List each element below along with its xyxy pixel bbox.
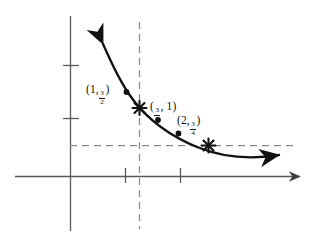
label-point-2: (32, 1) [150, 101, 176, 123]
asterisk-marker-horizontal [202, 139, 216, 153]
label-point-2-denominator: 2 [154, 116, 160, 123]
curve-point-dot-1 [124, 89, 130, 95]
label-point-1-denominator: 2 [99, 99, 105, 106]
label-point-3: (2,34) [177, 115, 200, 137]
label-point-1: (1,32) [86, 84, 109, 106]
label-point-1-prefix: (1, [86, 83, 99, 95]
label-point-2-suffix: , 1) [161, 100, 177, 112]
asterisk-marker-vertical [133, 101, 147, 115]
label-point-3-denominator: 4 [190, 130, 196, 137]
label-point-3-suffix: ) [196, 114, 200, 126]
graph-figure: (1,32) (32, 1) (2,34) [0, 0, 317, 248]
label-point-2-fraction: 32 [154, 107, 160, 123]
plot-canvas [0, 0, 317, 248]
label-point-2-prefix: ( [150, 100, 154, 112]
label-point-1-suffix: ) [105, 83, 109, 95]
function-curve [103, 44, 279, 157]
label-point-3-prefix: (2, [177, 114, 190, 126]
